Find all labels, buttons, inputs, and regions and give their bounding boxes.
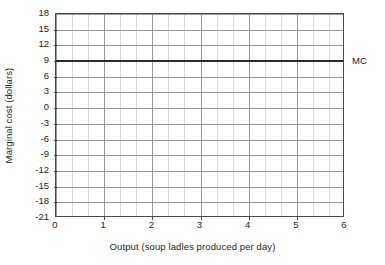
x-tick-label: 3 <box>197 220 202 230</box>
y-tick-mark <box>54 171 58 172</box>
y-tick-mark <box>54 124 58 125</box>
y-tick-mark <box>54 108 58 109</box>
mc-series-line <box>56 60 343 62</box>
y-tick-label: 12 <box>38 40 49 50</box>
x-tick-label: 4 <box>245 220 250 230</box>
y-tick-label: -3 <box>41 118 49 128</box>
y-tick-mark <box>54 77 58 78</box>
y-tick-label: 15 <box>38 24 49 34</box>
y-tick-label: 9 <box>44 55 49 65</box>
marginal-cost-chart: Marginal cost (dollars) 1815129630-3-6-9… <box>0 0 385 265</box>
major-gridlines <box>56 14 343 216</box>
plot-area <box>55 13 344 217</box>
y-tick-label: -15 <box>35 181 49 191</box>
y-tick-mark <box>54 202 58 203</box>
y-tick-mark <box>54 187 58 188</box>
y-tick-label: -6 <box>41 134 49 144</box>
y-tick-label: 0 <box>44 102 49 112</box>
x-tick-label: 2 <box>149 220 154 230</box>
y-tick-mark <box>54 140 58 141</box>
y-tick-label: -9 <box>41 149 49 159</box>
y-tick-mark <box>54 92 58 93</box>
x-tick-label: 5 <box>293 220 298 230</box>
y-tick-mark <box>54 155 58 156</box>
y-tick-label: -18 <box>35 197 49 207</box>
y-tick-label: 18 <box>38 8 49 18</box>
y-tick-label: 3 <box>44 87 49 97</box>
y-tick-label: -21 <box>35 212 49 222</box>
x-axis-title: Output (soup ladles produced per day) <box>0 241 385 252</box>
mc-series-label: MC <box>352 55 367 66</box>
y-tick-label: 6 <box>44 71 49 81</box>
y-tick-label: -12 <box>35 165 49 175</box>
minor-gridlines <box>56 14 343 216</box>
y-tick-mark <box>54 45 58 46</box>
y-tick-mark <box>54 30 58 31</box>
x-tick-label: 0 <box>52 220 57 230</box>
y-axis-title-container: Marginal cost (dollars) <box>0 13 18 217</box>
y-axis-title: Marginal cost (dollars) <box>4 67 15 163</box>
x-tick-label: 1 <box>101 220 106 230</box>
x-tick-label: 6 <box>341 220 346 230</box>
